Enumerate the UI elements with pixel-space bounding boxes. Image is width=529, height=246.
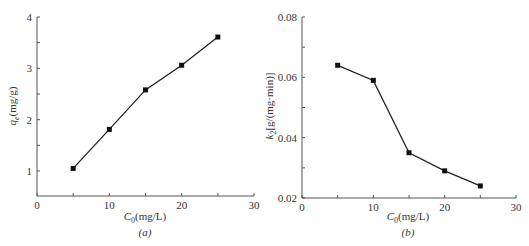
- ticks: [302, 17, 516, 198]
- y-tick-label: 1: [27, 165, 33, 177]
- data-point-marker: [371, 78, 376, 83]
- figure: 01020301234 qe(mg/g) C0(mg/L) (a) 010203…: [0, 0, 529, 246]
- y-tick-label: 0.02: [278, 192, 297, 204]
- data-point-marker: [407, 150, 412, 155]
- x-tick-label: 0: [34, 199, 40, 211]
- y-tick-label: 0.04: [278, 132, 298, 144]
- data-point-marker: [335, 63, 340, 68]
- data-point-marker: [478, 183, 483, 188]
- y-tick-label: 3: [27, 62, 33, 74]
- data-point-marker: [107, 127, 112, 132]
- x-tick-label: 20: [439, 201, 451, 213]
- data-point-marker: [442, 168, 447, 173]
- chart-a: 01020301234 qe(mg/g) C0(mg/L) (a): [6, 11, 260, 239]
- chart-b: 01020300.020.040.060.08 k2[g/(mg·min)] C…: [263, 11, 522, 239]
- y-tick-label: 2: [27, 114, 33, 126]
- x-tick-label: 30: [249, 199, 261, 211]
- chart-caption: (a): [139, 226, 152, 239]
- data-point-marker: [179, 63, 184, 68]
- tick-labels: 01020301234: [27, 11, 261, 211]
- x-tick-label: 20: [176, 199, 188, 211]
- y-tick-label: 0.06: [278, 71, 298, 83]
- x-tick-label: 10: [368, 201, 380, 213]
- x-axis-label: C0(mg/L): [387, 210, 430, 225]
- y-tick-label: 4: [27, 11, 33, 23]
- x-axis-label: C0(mg/L): [124, 210, 167, 225]
- x-tick-label: 0: [299, 201, 305, 213]
- x-tick-label: 30: [511, 201, 523, 213]
- data-point-marker: [215, 35, 220, 40]
- y-tick-label: 0.08: [278, 11, 298, 23]
- data-point-marker: [71, 166, 76, 171]
- x-tick-label: 10: [104, 199, 116, 211]
- data-line: [73, 37, 218, 168]
- ticks: [37, 17, 254, 196]
- tick-labels: 01020300.020.040.060.08: [278, 11, 522, 213]
- chart-caption: (b): [402, 226, 415, 239]
- data-point-marker: [143, 87, 148, 92]
- data-line: [338, 65, 481, 186]
- data-markers: [71, 35, 221, 171]
- y-axis-label: k2[g/(mg·min)]: [263, 73, 278, 140]
- y-axis-label: qe(mg/g): [6, 86, 21, 125]
- data-markers: [335, 63, 483, 189]
